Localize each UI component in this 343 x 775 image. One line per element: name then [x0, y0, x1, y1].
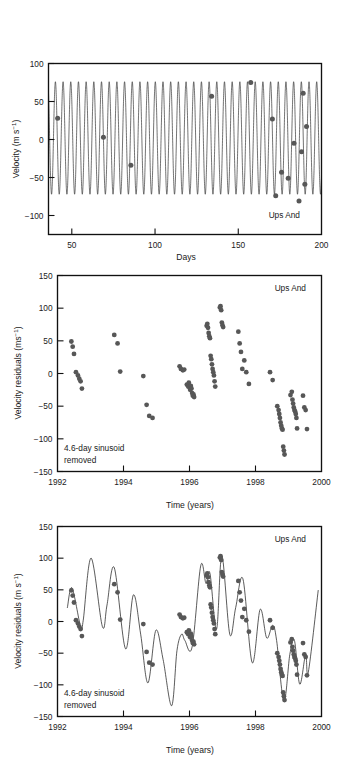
- data-point: [182, 615, 187, 620]
- panel-1-plot: 100500−50−100 50100150200 Ups And Days V…: [0, 20, 343, 265]
- data-point: [212, 621, 217, 626]
- data-point: [189, 634, 194, 639]
- data-point: [295, 672, 300, 677]
- data-point: [244, 618, 249, 623]
- data-point: [189, 386, 194, 391]
- x-tick-label: 2000: [312, 722, 331, 732]
- data-point: [74, 618, 79, 623]
- panel-3-y-axis-title: Velocity residuals (m s−1): [12, 573, 23, 669]
- x-tick-label: 1992: [48, 477, 67, 487]
- data-point: [141, 622, 146, 627]
- panel-residuals-with-model: 150100500−50−100−150 1992199419961998200…: [0, 520, 343, 775]
- y-tick-label: −150: [34, 712, 53, 722]
- data-point: [301, 91, 306, 96]
- data-point: [192, 395, 197, 400]
- data-point: [270, 378, 275, 383]
- data-point: [208, 336, 213, 341]
- keplerian-model-curve: [67, 556, 318, 706]
- data-point: [69, 588, 74, 593]
- y-tick-label: 100: [30, 59, 44, 69]
- panel-2-x-tick-labels: 19921994199619982000: [48, 477, 331, 487]
- data-point: [209, 605, 214, 610]
- data-point: [294, 416, 299, 421]
- data-point: [212, 379, 217, 384]
- data-point: [278, 662, 283, 667]
- data-point: [247, 629, 252, 634]
- data-point: [239, 350, 244, 355]
- data-point: [221, 325, 226, 330]
- data-point: [289, 637, 294, 642]
- data-point: [302, 182, 307, 187]
- data-point: [236, 579, 241, 584]
- data-point: [289, 389, 294, 394]
- panel-2-y-tick-labels: 150100500−50−100−150: [34, 271, 53, 477]
- y-tick-label: 0: [48, 617, 53, 627]
- panel-3-plot: 150100500−50−100−150 1992199419961998200…: [0, 520, 343, 775]
- x-tick-label: 1998: [246, 722, 265, 732]
- data-point: [270, 116, 275, 121]
- data-point: [70, 593, 75, 598]
- data-point: [118, 369, 123, 374]
- panel-3-y-tick-labels: 150100500−50−100−150: [34, 522, 53, 722]
- panel-1-x-tick-labels: 50100150200: [67, 240, 329, 250]
- data-point: [72, 352, 77, 357]
- annotation-line-1: 4.6-day sinusoid: [64, 443, 125, 453]
- data-point: [239, 598, 244, 603]
- data-point: [192, 642, 197, 647]
- x-tick-label: 2000: [312, 477, 331, 487]
- data-point: [268, 370, 273, 375]
- data-point: [150, 662, 155, 667]
- y-tick-label: −100: [34, 680, 53, 690]
- data-point: [297, 199, 302, 204]
- y-tick-label: 150: [39, 271, 53, 281]
- data-point: [282, 698, 287, 703]
- x-tick-label: 1994: [114, 722, 133, 732]
- data-point: [286, 176, 291, 181]
- data-point: [115, 590, 120, 595]
- data-point: [209, 357, 214, 362]
- data-point: [303, 408, 308, 413]
- panel-1-x-axis-title: Days: [176, 252, 196, 262]
- panel-3-x-axis-title: Time (years): [166, 745, 214, 755]
- data-point: [80, 634, 85, 639]
- data-point-group: [55, 80, 309, 204]
- y-tick-label: 100: [39, 553, 53, 563]
- annotation-line-2: removed: [64, 455, 97, 465]
- data-point: [210, 362, 215, 367]
- y-tick-label: 150: [39, 522, 53, 532]
- data-point: [213, 384, 218, 389]
- data-point: [115, 341, 120, 346]
- data-point: [150, 416, 155, 421]
- data-point: [69, 339, 74, 344]
- data-point: [301, 641, 306, 646]
- panel-2-y-axis-title: Velocity residuals (ms−1): [12, 326, 23, 419]
- data-point: [70, 344, 75, 349]
- data-point: [244, 370, 249, 375]
- data-point: [141, 374, 146, 379]
- y-tick-label: 0: [48, 369, 53, 379]
- data-point: [55, 116, 60, 121]
- x-tick-label: 50: [67, 240, 77, 250]
- data-point: [118, 617, 123, 622]
- x-tick-label: 100: [148, 240, 162, 250]
- panel-2-plot: 150100500−50−100−150 1992199419961998200…: [0, 265, 343, 515]
- object-label: Ups And: [275, 283, 307, 293]
- data-point: [279, 170, 284, 175]
- data-point: [294, 662, 299, 667]
- data-point: [213, 632, 218, 637]
- data-point: [248, 80, 253, 85]
- data-point: [219, 308, 224, 313]
- x-tick-label: 1996: [180, 477, 199, 487]
- data-point: [242, 606, 247, 611]
- data-point-group: [69, 554, 309, 703]
- data-point: [206, 575, 211, 580]
- data-point: [278, 416, 283, 421]
- x-tick-label: 150: [231, 240, 245, 250]
- y-tick-label: 50: [43, 585, 53, 595]
- data-point: [112, 582, 117, 587]
- data-point: [280, 674, 285, 679]
- data-point: [240, 615, 245, 620]
- panel-residuals-scatter: 150100500−50−100−150 1992199419961998200…: [0, 265, 343, 515]
- data-point: [280, 427, 285, 432]
- panel-1-y-axis-title: Velocity (m s−1): [10, 120, 21, 179]
